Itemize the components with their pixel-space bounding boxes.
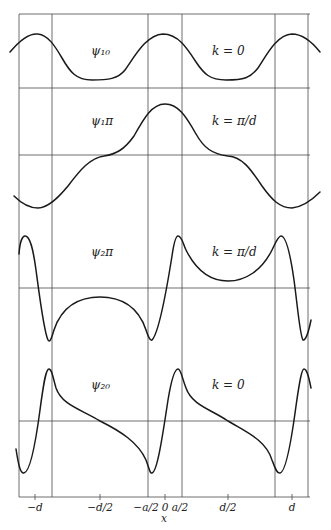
label-k-psi20: k = 0 (212, 378, 245, 392)
tick-label-neg-a-half: −a/2 (133, 501, 159, 513)
label-psi10: ψ₁₀ (91, 44, 110, 58)
curve-psi1pi (14, 104, 320, 208)
wavefunction-diagram: ψ₁₀ k = 0 ψ₁π k = π/d ψ₂π k = π/d ψ₂₀ k … (0, 0, 331, 530)
x-axis-tick-labels: −d −d/2 −a/2 0 a/2 d/2 d x (27, 501, 295, 524)
label-psi2pi: ψ₂π (91, 245, 114, 259)
label-k-psi1pi: k = π/d (212, 114, 257, 128)
panel-labels: ψ₁₀ k = 0 ψ₁π k = π/d ψ₂π k = π/d ψ₂₀ k … (91, 44, 257, 392)
curve-psi2pi (19, 236, 311, 341)
label-psi1pi: ψ₁π (91, 114, 114, 128)
x-axis-label: x (161, 512, 167, 524)
tick-label-neg-d: −d (27, 501, 43, 513)
tick-label-d: d (289, 501, 296, 513)
tick-label-neg-d-half: −d/2 (87, 501, 113, 513)
label-k-psi10: k = 0 (212, 44, 245, 58)
label-k-psi2pi: k = π/d (212, 245, 257, 259)
tick-label-d-half: d/2 (220, 501, 237, 513)
label-psi20: ψ₂₀ (91, 378, 110, 392)
curve-psi10 (10, 34, 320, 80)
tick-label-a-half: a/2 (172, 501, 189, 513)
